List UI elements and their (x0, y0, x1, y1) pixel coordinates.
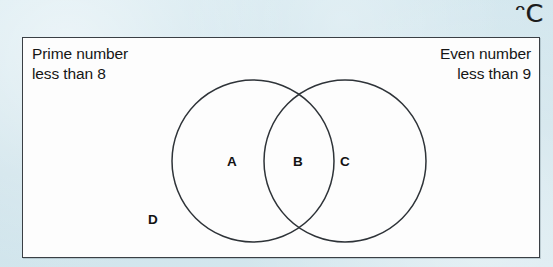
region-label-a: A (227, 154, 237, 169)
region-label-b: B (293, 154, 303, 169)
venn-diagram-figure: ᵔC Prime number less than 8 Even number … (0, 0, 553, 267)
right-set-label: Even number less than 9 (440, 44, 531, 83)
region-label-c: C (340, 154, 350, 169)
universe-rectangle: Prime number less than 8 Even number les… (22, 37, 540, 258)
universal-set-symbol: ᵔC (515, 1, 543, 26)
region-label-d: D (148, 212, 158, 227)
left-set-label: Prime number less than 8 (32, 44, 128, 83)
